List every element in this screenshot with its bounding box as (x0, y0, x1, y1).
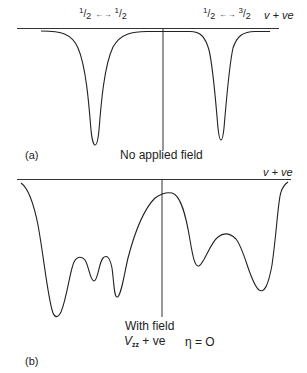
panel-b-axis-label: v + ve (263, 166, 293, 178)
transition-label-right: 1/2← →3/2 (203, 5, 251, 22)
vzz-label: Vzz + ve (124, 335, 165, 351)
panel-a-spectrum (41, 31, 270, 145)
double-arrow-icon: ← → (95, 10, 110, 19)
frac-numerator: 1 (79, 6, 83, 15)
frac-denominator: 2 (246, 11, 251, 21)
frac-numerator: 3 (238, 6, 242, 15)
panel-b-label: (b) (25, 355, 38, 367)
panel-a-caption: No applied field (120, 149, 203, 161)
spectra-diagram (0, 0, 307, 373)
transition-label-left: 1/2← →1/2 (79, 5, 127, 22)
panel-b-spectrum (21, 182, 288, 317)
frac-numerator: 1 (114, 6, 118, 15)
frac-numerator: 1 (203, 6, 207, 15)
panel-b-caption: With field (125, 320, 174, 332)
vzz-subscript: zz (132, 341, 139, 348)
panel-a-label: (a) (25, 149, 38, 161)
frac-denominator: 2 (86, 11, 91, 21)
double-arrow-icon: ← → (219, 10, 234, 19)
panel-a-axis-label: v + ve (264, 9, 294, 21)
frac-denominator: 2 (122, 11, 127, 21)
vzz-symbol: V (124, 334, 132, 348)
frac-denominator: 2 (210, 11, 215, 21)
vzz-sign: + ve (139, 334, 165, 348)
eta-label: η = O (185, 336, 215, 348)
